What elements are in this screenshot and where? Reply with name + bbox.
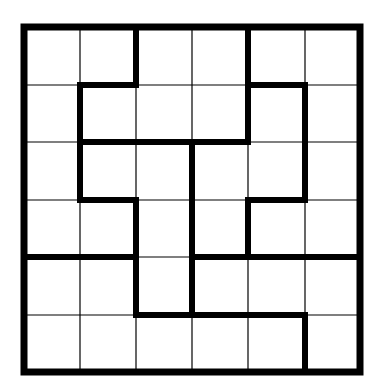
grid-cell-r2-c3[interactable] — [192, 142, 248, 200]
grid-cell-r3-c2[interactable] — [136, 200, 192, 257]
grid-cell-r1-c1[interactable] — [80, 85, 136, 142]
grid-cell-r1-c0[interactable] — [24, 85, 80, 142]
grid-cell-r3-c5[interactable] — [305, 200, 360, 257]
grid-cell-r0-c4[interactable] — [248, 27, 305, 85]
grid-cell-r0-c2[interactable] — [136, 27, 192, 85]
grid-cell-r1-c3[interactable] — [192, 85, 248, 142]
grid-cell-r2-c4[interactable] — [248, 142, 305, 200]
grid-cell-r2-c5[interactable] — [305, 142, 360, 200]
grid-cell-r0-c1[interactable] — [80, 27, 136, 85]
grid-cell-r3-c1[interactable] — [80, 200, 136, 257]
grid-cell-r5-c1[interactable] — [80, 315, 136, 372]
grid-cell-r3-c4[interactable] — [248, 200, 305, 257]
grid-cell-r5-c3[interactable] — [192, 315, 248, 372]
grid-cell-r0-c5[interactable] — [305, 27, 360, 85]
grid-cell-r3-c0[interactable] — [24, 200, 80, 257]
grid-cell-r4-c3[interactable] — [192, 257, 248, 315]
grid-cell-r2-c1[interactable] — [80, 142, 136, 200]
grid-cell-r4-c0[interactable] — [24, 257, 80, 315]
grid-cell-r0-c0[interactable] — [24, 27, 80, 85]
grid-cell-r2-c2[interactable] — [136, 142, 192, 200]
grid-cell-r4-c2[interactable] — [136, 257, 192, 315]
grid-cell-r0-c3[interactable] — [192, 27, 248, 85]
grid-cell-r4-c4[interactable] — [248, 257, 305, 315]
puzzle-board — [0, 0, 381, 392]
grid-cell-r1-c5[interactable] — [305, 85, 360, 142]
grid-cell-r1-c2[interactable] — [136, 85, 192, 142]
grid-cell-r1-c4[interactable] — [248, 85, 305, 142]
grid-cell-r3-c3[interactable] — [192, 200, 248, 257]
grid-cell-r2-c0[interactable] — [24, 142, 80, 200]
grid-cell-r5-c0[interactable] — [24, 315, 80, 372]
grid-cell-r4-c1[interactable] — [80, 257, 136, 315]
grid-cell-r5-c5[interactable] — [305, 315, 360, 372]
grid-cell-r5-c2[interactable] — [136, 315, 192, 372]
grid-cell-r4-c5[interactable] — [305, 257, 360, 315]
grid-cell-r5-c4[interactable] — [248, 315, 305, 372]
